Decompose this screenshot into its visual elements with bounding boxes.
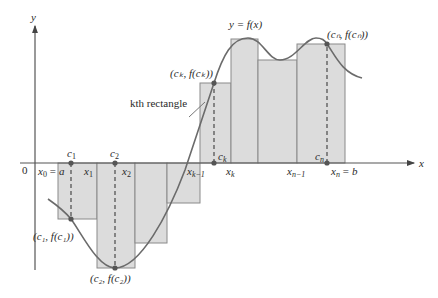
rectangle-3 [135,163,167,243]
xn-1-label: xn−1 [286,165,305,179]
xn-label: xn= b [330,165,358,179]
origin-label: 0 [22,164,28,176]
curve-label: y = f(x) [228,18,262,31]
rectangle-4 [167,163,200,203]
diagram-canvas: y x 0 x0= a x1 x2 xk−1 xk xn−1 xn= b c1 … [0,0,438,298]
y-axis-label: y [30,11,36,23]
c2-label: c2 [110,147,119,161]
x0-label: x0= a [37,165,65,179]
c1-label: c1 [67,147,76,161]
point-c1-label: (c₁, f(c₁)) [33,230,74,243]
rectangle-k1 [231,39,258,163]
rectangle-n [297,44,345,163]
point-cn-label: (cₙ, f(cₙ)) [327,28,368,41]
riemann-sum-diagram: y x 0 x0= a x1 x2 xk−1 xk xn−1 xn= b c1 … [0,0,438,298]
point-c2-label: (c₂, f(c₂)) [90,272,131,285]
point-ck-label: (cₖ, f(cₖ)) [170,67,213,80]
xk-label: xk [225,165,235,179]
kth-rectangle-label: kth rectangle [130,97,187,109]
rectangle-k2 [258,60,297,163]
rectangle-k [200,83,231,163]
x-axis-label: x [418,157,424,169]
